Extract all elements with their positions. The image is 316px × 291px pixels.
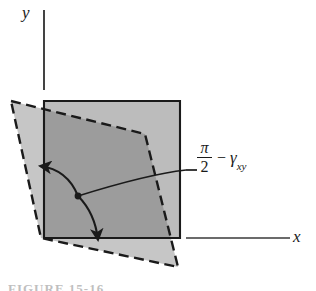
- angle-vertex-dot: [75, 193, 82, 200]
- figure-graphic: [0, 0, 316, 291]
- fraction-numerator: π: [197, 140, 211, 157]
- y-axis-label: y: [22, 4, 30, 21]
- figure-container: y x π 2 − γxy FIGURE 15-16: [0, 0, 316, 291]
- gamma-subscript: xy: [237, 160, 247, 172]
- angle-annotation: π 2 − γxy: [196, 140, 247, 175]
- gamma-symbol: γ: [230, 148, 237, 167]
- figure-caption: FIGURE 15-16: [8, 281, 104, 291]
- minus-operator: −: [213, 150, 230, 166]
- pi-over-two-fraction: π 2: [197, 140, 212, 175]
- fraction-denominator: 2: [198, 158, 212, 175]
- gamma-term: γxy: [230, 149, 246, 169]
- x-axis-label: x: [293, 228, 301, 245]
